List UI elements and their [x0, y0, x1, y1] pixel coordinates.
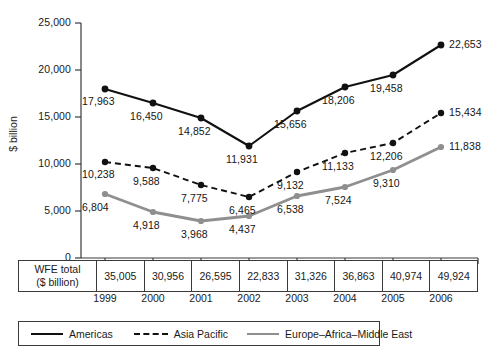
- data-label-asia-pacific-2005: 12,206: [370, 150, 403, 162]
- data-label-americas-1999: 17,963: [82, 95, 115, 107]
- chart-legend: Americas Asia Pacific Europe–Africa–Midd…: [18, 321, 380, 346]
- data-label-asia-pacific-2002: 6,465: [229, 204, 256, 216]
- data-label-americas-2005: 19,458: [370, 82, 403, 94]
- legend-label-eame: Europe–Africa–Middle East: [285, 328, 412, 340]
- legend-item-eame: Europe–Africa–Middle East: [247, 328, 412, 340]
- x-label-2001: 2001: [177, 292, 225, 304]
- table-cell-1999: 35,005: [97, 261, 145, 292]
- data-label-americas-2003: 15,656: [274, 118, 307, 130]
- data-label-eame-2005: 9,310: [373, 177, 400, 189]
- legend-line-solid-black-icon: [31, 333, 63, 335]
- data-label-americas-2004: 18,206: [322, 94, 355, 106]
- data-label-eame-2003: 6,538: [277, 203, 304, 215]
- series-line-americas: [105, 45, 441, 146]
- x-label-2004: 2004: [321, 292, 369, 304]
- table-row-label: WFE total ($ billion): [19, 261, 97, 292]
- x-label-1999: 1999: [81, 292, 129, 304]
- y-tick-label-15000: 15,000: [18, 110, 71, 122]
- x-label-2002: 2002: [225, 292, 273, 304]
- x-label-2003: 2003: [273, 292, 321, 304]
- table-cell-2006: 49,924: [430, 261, 478, 292]
- y-axis-ticks: [75, 23, 81, 258]
- wfe-total-table: WFE total ($ billion) 35,005 30,956 26,5…: [18, 260, 478, 292]
- legend-item-asia-pacific: Asia Pacific: [134, 328, 228, 340]
- data-label-americas-2006: 22,653: [449, 38, 482, 50]
- legend-line-solid-gray-icon: [247, 333, 279, 335]
- table-cell-2005: 40,974: [382, 261, 430, 292]
- data-label-asia-pacific-2000: 9,588: [133, 175, 160, 187]
- data-label-americas-2001: 14,852: [178, 125, 211, 137]
- data-label-asia-pacific-2004: 11,133: [322, 160, 354, 172]
- x-label-2006: 2006: [417, 292, 465, 304]
- legend-label-asia-pacific: Asia Pacific: [174, 328, 228, 340]
- table-row-label-line1: WFE total: [19, 263, 96, 276]
- series-markers-americas: [102, 42, 445, 150]
- line-chart: $ billion 25,000 20,000 15,000 10,000 5,…: [0, 0, 489, 268]
- data-label-asia-pacific-1999: 10,238: [82, 168, 115, 180]
- x-label-2005: 2005: [369, 292, 417, 304]
- data-label-asia-pacific-2003: 9,132: [277, 179, 304, 191]
- legend-item-americas: Americas: [31, 328, 113, 340]
- y-tick-label-10000: 10,000: [18, 157, 71, 169]
- table-cell-2004: 36,863: [335, 261, 383, 292]
- table-cell-2000: 30,956: [144, 261, 192, 292]
- data-label-americas-2000: 16,450: [130, 110, 163, 122]
- table-cell-2002: 22,833: [239, 261, 287, 292]
- data-label-americas-2002: 11,931: [226, 153, 258, 165]
- data-label-eame-2001: 3,968: [181, 228, 208, 240]
- data-label-eame-2006: 11,838: [449, 140, 481, 152]
- data-label-eame-2002: 4,437: [229, 223, 256, 235]
- legend-label-americas: Americas: [69, 328, 113, 340]
- y-tick-label-5000: 5,000: [18, 204, 71, 216]
- figure-root: $ billion 25,000 20,000 15,000 10,000 5,…: [0, 0, 489, 356]
- x-label-2000: 2000: [129, 292, 177, 304]
- y-tick-label-20000: 20,000: [18, 63, 71, 75]
- legend-line-dashed-black-icon: [134, 333, 168, 335]
- table-row-label-line2: ($ billion): [19, 276, 96, 289]
- table-cell-2003: 31,326: [287, 261, 335, 292]
- data-label-asia-pacific-2006: 15,434: [449, 106, 482, 118]
- data-label-eame-2004: 7,524: [325, 194, 352, 206]
- data-label-asia-pacific-2001: 7,775: [181, 192, 208, 204]
- table-cell-2001: 26,595: [192, 261, 240, 292]
- y-tick-label-25000: 25,000: [18, 16, 71, 28]
- table-row: WFE total ($ billion) 35,005 30,956 26,5…: [19, 261, 478, 292]
- x-axis-category-labels: 1999 2000 2001 2002 2003 2004 2005 2006: [18, 292, 478, 310]
- data-label-eame-1999: 6,804: [82, 201, 109, 213]
- data-label-eame-2000: 4,918: [133, 219, 160, 231]
